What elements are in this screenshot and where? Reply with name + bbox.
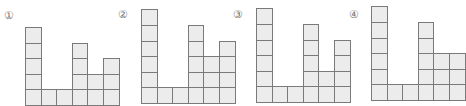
square-cell <box>272 86 289 103</box>
square-cell <box>188 41 205 58</box>
square-cell <box>157 87 174 104</box>
square-cell <box>72 43 89 60</box>
square-cell <box>72 89 89 106</box>
square-cell <box>72 58 89 75</box>
square-cell <box>256 40 273 57</box>
square-cell <box>103 89 120 106</box>
square-cell <box>303 24 320 41</box>
square-cell <box>141 72 158 89</box>
square-cell <box>371 84 388 101</box>
square-cell <box>334 55 351 72</box>
square-cell <box>141 87 158 104</box>
square-cell <box>287 86 304 103</box>
figure-label: ④ <box>348 9 360 21</box>
square-cell <box>449 84 466 101</box>
figure-label: ① <box>3 10 15 22</box>
square-cell <box>402 84 419 101</box>
square-cell <box>371 69 388 86</box>
square-cell <box>87 74 104 91</box>
square-cell <box>318 86 335 103</box>
square-cell <box>203 72 220 89</box>
figure-label: ② <box>117 9 129 21</box>
square-cell <box>103 74 120 91</box>
square-cell <box>172 87 189 104</box>
square-cell <box>203 87 220 104</box>
square-cell <box>41 89 58 106</box>
square-cell <box>371 53 388 70</box>
square-cell <box>219 72 236 89</box>
square-cell <box>25 58 42 75</box>
square-cell <box>256 55 273 72</box>
square-cell <box>219 41 236 58</box>
square-cell <box>318 71 335 88</box>
square-cell <box>87 89 104 106</box>
square-cell <box>418 69 435 86</box>
square-cell <box>256 24 273 41</box>
square-cell <box>141 56 158 73</box>
square-cell <box>188 56 205 73</box>
square-cell <box>141 41 158 58</box>
square-cell <box>418 22 435 39</box>
square-cell <box>433 53 450 70</box>
square-cell <box>334 71 351 88</box>
square-cell <box>141 25 158 42</box>
square-cell <box>25 74 42 91</box>
square-cell <box>418 53 435 70</box>
square-cell <box>449 53 466 70</box>
square-cell <box>72 74 89 91</box>
square-cell <box>334 40 351 57</box>
square-cell <box>25 43 42 60</box>
square-cell <box>303 40 320 57</box>
square-cell <box>25 27 42 44</box>
square-cell <box>449 69 466 86</box>
square-cell <box>303 55 320 72</box>
square-cell <box>103 58 120 75</box>
square-cell <box>433 69 450 86</box>
square-cell <box>371 22 388 39</box>
square-cell <box>141 9 158 26</box>
square-cell <box>387 84 404 101</box>
square-cell <box>188 72 205 89</box>
square-cell <box>188 25 205 42</box>
square-cell <box>418 84 435 101</box>
square-cell <box>25 89 42 106</box>
square-cell <box>56 89 73 106</box>
square-cell <box>418 38 435 55</box>
square-cell <box>256 86 273 103</box>
square-cell <box>256 8 273 25</box>
square-cell <box>219 56 236 73</box>
square-cell <box>303 86 320 103</box>
square-cell <box>371 6 388 23</box>
square-cell <box>371 38 388 55</box>
square-cell <box>219 87 236 104</box>
square-cell <box>303 71 320 88</box>
square-cell <box>256 71 273 88</box>
square-cell <box>334 86 351 103</box>
square-cell <box>203 56 220 73</box>
figure-label: ③ <box>232 9 244 21</box>
square-cell <box>433 84 450 101</box>
square-cell <box>188 87 205 104</box>
